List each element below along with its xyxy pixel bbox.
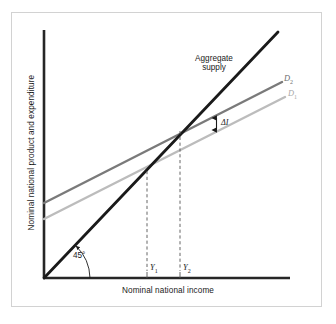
angle-45-label: 45° [73,251,85,260]
demand-curve-d1 [44,97,285,219]
aggregate-supply-label-line2: supply [185,63,243,72]
d1-subscript: 1 [294,94,297,100]
y1-subscript: 1 [155,268,158,274]
chart-plot-area [0,0,336,324]
x-tick-label-y1: Y1 [150,263,158,274]
x-tick-label-y2: Y2 [183,263,191,274]
d2-subscript: 2 [290,79,293,85]
aggregate-supply-label-line1: Aggregate [185,54,243,63]
y2-subscript: 2 [188,268,191,274]
demand-curve-d2-label: D2 [284,74,293,85]
demand-curve-d1-label: D1 [288,89,297,100]
x-axis-title: Nominal national income [0,286,336,295]
figure-container: Aggregate supply D2 D1 ΔI 45° Y1 Y2 Nomi… [0,0,336,324]
demand-curve-d2 [44,82,282,203]
aggregate-supply-label: Aggregate supply [185,54,243,72]
y-axis-title: Nominal national product and expenditure [27,43,36,263]
delta-investment-label: ΔI [221,118,229,127]
